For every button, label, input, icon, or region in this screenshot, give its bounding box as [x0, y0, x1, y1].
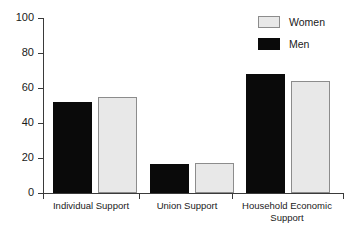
- x-axis-category-label-individual-support: Individual Support: [43, 200, 139, 212]
- y-axis-label-40: 40: [4, 117, 34, 128]
- legend-swatch-men-icon: [258, 38, 280, 50]
- bar-men-individual-support: [53, 102, 92, 193]
- legend-item-women: Women: [258, 14, 325, 30]
- y-axis-label-20: 20: [4, 152, 34, 163]
- y-axis-label-80: 80: [4, 47, 34, 58]
- bar-men-household-economic-support: [246, 74, 285, 193]
- y-axis-label-100: 100: [4, 12, 34, 23]
- bar-women-household-economic-support: [291, 81, 330, 193]
- x-axis-tick-start: [43, 194, 44, 199]
- bar-women-union-support: [195, 163, 234, 193]
- x-axis-line: [43, 193, 344, 194]
- legend: Women Men: [258, 14, 325, 58]
- x-axis-tick-group-2: [232, 194, 233, 199]
- y-axis-label-0: 0: [4, 187, 34, 198]
- legend-swatch-women-icon: [258, 16, 280, 28]
- bar-chart: 100 80 60 40 20 0 Individual Support Uni…: [0, 0, 349, 242]
- x-axis-category-label-household-economic-support: Household Economic Support: [231, 200, 343, 223]
- legend-label-women: Women: [289, 16, 325, 28]
- bar-men-union-support: [150, 164, 189, 193]
- legend-item-men: Men: [258, 36, 325, 52]
- x-axis-category-label-union-support: Union Support: [145, 200, 229, 212]
- bar-women-individual-support: [98, 97, 137, 193]
- x-axis-tick-group-1: [139, 194, 140, 199]
- y-axis-label-60: 60: [4, 82, 34, 93]
- x-axis-tick-end: [343, 194, 344, 199]
- legend-label-men: Men: [289, 38, 309, 50]
